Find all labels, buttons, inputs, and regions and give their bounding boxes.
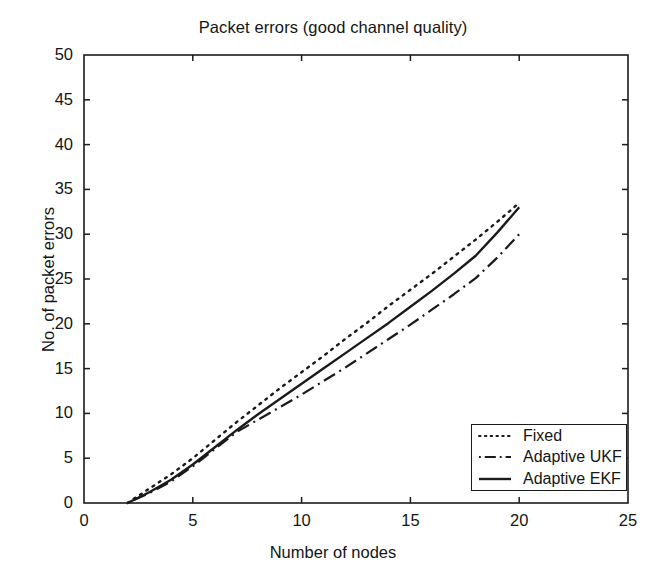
legend-label-adaptive-ekf: Adaptive EKF (523, 471, 621, 487)
series-layer (128, 203, 520, 503)
chart-figure: Packet errors (good channel quality) 051… (0, 0, 666, 579)
x-tick-label: 5 (173, 511, 213, 530)
chart-title: Packet errors (good channel quality) (0, 18, 666, 37)
legend-label-fixed: Fixed (523, 428, 562, 444)
series-line-fixed (128, 203, 520, 503)
x-tick-label: 10 (282, 511, 322, 530)
x-tick-label: 25 (608, 511, 648, 530)
legend-item-adaptive-ukf: Adaptive UKF (472, 447, 626, 469)
series-line-adaptive-ekf (128, 207, 520, 503)
x-tick-label: 15 (390, 511, 430, 530)
legend-swatch-dashdot (477, 448, 517, 466)
chart-legend: Fixed Adaptive UKF Adaptive EKF (471, 424, 627, 491)
legend-item-fixed: Fixed (472, 425, 626, 447)
plot-canvas (0, 0, 666, 579)
y-axis-label: No. of packet errors (39, 56, 58, 504)
x-axis-label: Number of nodes (0, 543, 666, 562)
x-tick-label: 0 (64, 511, 104, 530)
legend-swatch-dotted (477, 427, 517, 445)
legend-label-adaptive-ukf: Adaptive UKF (523, 449, 622, 465)
legend-item-adaptive-ekf: Adaptive EKF (472, 468, 626, 490)
x-tick-label: 20 (499, 511, 539, 530)
legend-swatch-solid (477, 470, 517, 488)
